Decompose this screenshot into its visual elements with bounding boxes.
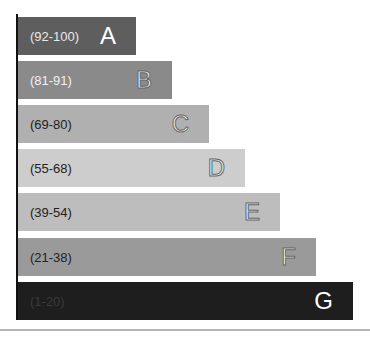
bar-range-label: (69-80)	[30, 117, 72, 132]
bar-b: (81-91)B	[18, 61, 172, 99]
bar-grade-letter: B	[136, 66, 152, 94]
bar-grade-letter: E	[244, 198, 260, 226]
bar-grade-letter: A	[100, 22, 116, 50]
bar-grade-letter: F	[281, 243, 296, 271]
bar-range-label: (55-68)	[30, 161, 72, 176]
bar-range-label: (1-20)	[30, 294, 65, 309]
bar-g: (1-20)G	[18, 282, 353, 320]
bar-range-label: (81-91)	[30, 73, 72, 88]
divider-line	[0, 329, 370, 331]
bar-grade-letter: C	[172, 110, 189, 138]
bar-d: (55-68)D	[18, 149, 245, 187]
bar-grade-letter: D	[208, 154, 225, 182]
bar-a: (92-100)A	[18, 17, 136, 55]
bar-range-label: (92-100)	[30, 29, 79, 44]
bar-e: (39-54)E	[18, 193, 280, 231]
bar-c: (69-80)C	[18, 105, 209, 143]
bar-range-label: (21-38)	[30, 250, 72, 265]
bar-grade-letter: G	[314, 287, 333, 315]
bar-range-label: (39-54)	[30, 205, 72, 220]
bar-f: (21-38)F	[18, 238, 316, 276]
